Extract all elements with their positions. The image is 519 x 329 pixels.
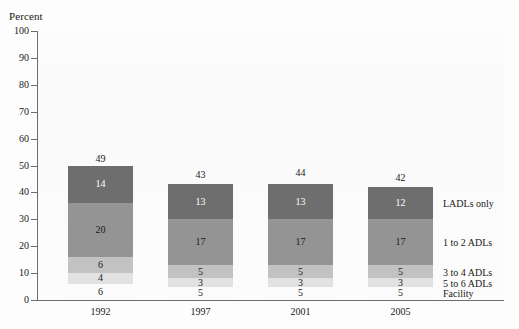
y-axis-tick — [31, 112, 37, 113]
y-axis-tick — [31, 166, 37, 167]
bar-segment: 13 — [268, 184, 333, 219]
y-axis-tick-label: 60 — [0, 134, 29, 144]
y-axis-tick — [31, 85, 37, 86]
y-axis-tick-label: 50 — [0, 161, 29, 171]
bar-segment-value: 3 — [198, 278, 203, 288]
y-axis-tick — [31, 273, 37, 274]
y-axis-tick — [31, 219, 37, 220]
bar-total-label: 43 — [168, 170, 233, 180]
bar-segment: 3 — [368, 278, 433, 286]
bar-segment: 20 — [68, 203, 133, 257]
bar-segment-value: 3 — [298, 278, 303, 288]
bar-segment: 4 — [68, 273, 133, 284]
bar-segment: 5 — [368, 265, 433, 278]
bar-segment-value: 17 — [396, 237, 406, 247]
bar-segment-value: 3 — [398, 278, 403, 288]
x-axis-label-1992: 1992 — [68, 306, 133, 317]
y-axis-tick-label: 70 — [0, 107, 29, 117]
legend-item-ladls-only: LADLs only — [443, 198, 494, 209]
bar-segment-value: 6 — [98, 260, 103, 270]
y-axis-line — [37, 31, 38, 301]
y-axis-tick-label: 100 — [0, 26, 29, 36]
bar-segment-value: 5 — [198, 288, 203, 298]
bar-segment-value: 5 — [298, 267, 303, 277]
legend-item-facility: Facility — [443, 288, 474, 299]
y-axis-tick-label: 20 — [0, 241, 29, 251]
bar-segment: 17 — [368, 219, 433, 265]
bar-segment: 5 — [268, 265, 333, 278]
x-axis-line — [37, 300, 504, 301]
bar-segment: 12 — [368, 187, 433, 219]
bar-segment: 3 — [268, 278, 333, 286]
bar-segment-value: 5 — [398, 267, 403, 277]
chart-container: Percent 1009080706050403020100 496462014… — [0, 0, 519, 329]
legend-item-5-to-6-adls: 5 to 6 ADLs — [443, 278, 492, 289]
legend-item-3-to-4-adls: 3 to 4 ADLs — [443, 267, 492, 278]
bar-segment: 17 — [268, 219, 333, 265]
y-axis-tick — [31, 246, 37, 247]
bar-segment-value: 4 — [98, 273, 103, 283]
y-axis-tick-label: 30 — [0, 214, 29, 224]
y-axis-tick-label: 40 — [0, 187, 29, 197]
bar-segment-value: 17 — [196, 237, 206, 247]
bar-total-label: 44 — [268, 168, 333, 178]
y-axis-tick — [31, 139, 37, 140]
bar-segment: 5 — [168, 287, 233, 300]
bar-segment: 5 — [268, 287, 333, 300]
bar-segment: 13 — [168, 184, 233, 219]
bar-segment: 5 — [168, 265, 233, 278]
bar-segment: 14 — [68, 166, 133, 204]
bar-segment-value: 13 — [296, 197, 306, 207]
x-axis-label-2001: 2001 — [268, 306, 333, 317]
y-axis-title: Percent — [9, 10, 43, 22]
bar-total-label: 42 — [368, 173, 433, 183]
y-axis-tick-label: 80 — [0, 80, 29, 90]
y-axis-tick — [31, 58, 37, 59]
bar-segment-value: 17 — [296, 237, 306, 247]
bar-segment-value: 5 — [198, 267, 203, 277]
bar-segment-value: 6 — [98, 287, 103, 297]
y-axis-tick-label: 10 — [0, 268, 29, 278]
bar-segment: 17 — [168, 219, 233, 265]
bar-segment-value: 20 — [96, 225, 106, 235]
bar-segment: 5 — [368, 287, 433, 300]
bar-segment: 6 — [68, 284, 133, 300]
y-axis-tick-label: 90 — [0, 53, 29, 63]
x-axis-label-2005: 2005 — [368, 306, 433, 317]
legend-item-1-to-2-adls: 1 to 2 ADLs — [443, 237, 492, 248]
bar-segment-value: 12 — [396, 198, 406, 208]
y-axis-tick — [31, 192, 37, 193]
bar-segment-value: 14 — [96, 179, 106, 189]
bar-segment: 6 — [68, 257, 133, 273]
bar-segment-value: 5 — [398, 288, 403, 298]
y-axis-tick — [31, 300, 37, 301]
x-axis-label-1997: 1997 — [168, 306, 233, 317]
bar-segment: 3 — [168, 278, 233, 286]
bar-segment-value: 5 — [298, 288, 303, 298]
y-axis-tick-label: 0 — [0, 295, 29, 305]
bar-total-label: 49 — [68, 154, 133, 164]
bar-segment-value: 13 — [196, 197, 206, 207]
y-axis-tick — [31, 31, 37, 32]
